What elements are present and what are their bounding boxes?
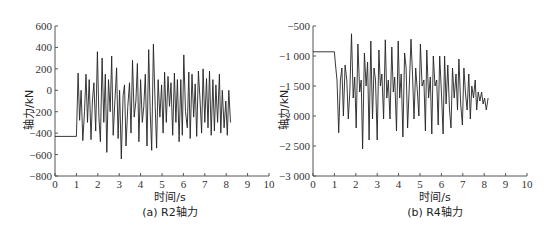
y-tick-label: −600 [29,149,52,161]
x-tick-label: 9 [245,178,251,190]
y-tick-label: 400 [36,41,53,53]
x-axis-label: 时间/s [405,188,465,204]
x-tick-label: 0 [310,178,316,190]
x-tick-label: 10 [522,178,534,190]
y-axis-label: 轴力/kN [275,70,291,130]
x-tick-label: 4 [396,178,402,190]
x-tick-label: 2 [353,178,359,190]
y-axis-label: 轴力/kN [20,70,36,130]
data-series-line [313,34,488,149]
x-tick-label: 0 [52,178,58,190]
y-tick-label: −3 000 [279,170,310,182]
x-tick-label: 10 [264,178,276,190]
y-tick-label: 600 [36,20,53,32]
x-axis-label: 时间/s [140,188,200,204]
x-tick-label: 2 [95,178,101,190]
r2-axial-force-plot: 6004002000−200−400−600−800012345678910 [0,0,275,228]
y-tick-label: 0 [47,84,53,96]
x-tick-label: 1 [74,178,80,190]
data-series-line [55,44,231,159]
chart-panel-r2: 6004002000−200−400−600−800012345678910 轴… [0,0,275,228]
chart-caption: (b) R4轴力 [385,203,485,219]
x-tick-label: 7 [202,178,208,190]
y-tick-label: −1 000 [279,50,310,62]
x-tick-label: 3 [374,178,380,190]
x-tick-label: 3 [116,178,122,190]
y-tick-label: −800 [29,170,52,182]
y-tick-label: −2 500 [279,140,310,152]
chart-caption: (a) R2轴力 [120,203,220,219]
y-tick-label: 200 [36,63,53,75]
y-tick-label: −500 [287,20,310,32]
x-tick-label: 9 [503,178,509,190]
x-tick-label: 8 [481,178,487,190]
x-tick-label: 1 [332,178,338,190]
chart-panel-r4: −500−1 000−1 500−2 000−2 500−3 000012345… [275,0,550,228]
x-tick-label: 8 [223,178,229,190]
